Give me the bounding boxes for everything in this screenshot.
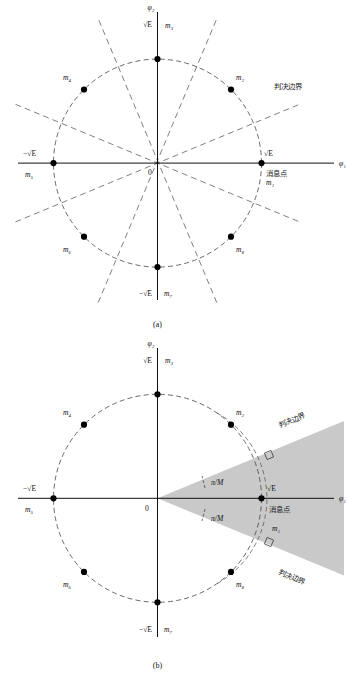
- point-label-m6-b: m₆: [63, 580, 71, 589]
- constellation-point: [228, 569, 234, 575]
- decision-boundary-label-lower-b: 判决边界: [277, 568, 307, 587]
- axis-value-neg-x-a: −√E: [23, 149, 36, 158]
- decision-boundary-label-a: 判决边界: [274, 82, 303, 91]
- axis-value-pos-x-b: √E: [267, 484, 276, 493]
- constellation-point: [154, 599, 160, 605]
- constellation-point: [154, 56, 160, 62]
- point-label-m7-a: m₇: [164, 289, 172, 298]
- constellation-point: [50, 495, 56, 501]
- figure-psk-constellation: φ₂ φ₁ 0 √E −√E √E −√E m₁ m₂ m₃ m₄ m₅ m₆ …: [0, 0, 360, 682]
- x-axis-label-a: φ₁: [339, 159, 346, 168]
- point-label-m1-b: m₁: [272, 524, 280, 533]
- point-label-m3-a: m₃: [165, 21, 173, 30]
- constellation-point: [258, 160, 264, 166]
- constellation-point: [228, 86, 234, 92]
- constellation-point: [81, 569, 87, 575]
- angle-label-upper: π/M: [211, 478, 224, 487]
- constellation-point: [81, 422, 87, 428]
- constellation-point: [228, 234, 234, 240]
- angle-label-lower: π/M: [211, 514, 224, 523]
- constellation-point: [258, 495, 264, 501]
- point-label-m4-b: m₄: [63, 408, 71, 417]
- origin-label-a: 0: [148, 168, 152, 177]
- constellation-point: [228, 422, 234, 428]
- point-label-m1-a: m₁: [266, 178, 274, 187]
- axis-value-pos-x-a: √E: [264, 149, 273, 158]
- message-point-label-b: 消息点: [269, 505, 291, 514]
- point-label-m5-b: m₅: [25, 505, 33, 514]
- constellation-point: [81, 234, 87, 240]
- y-axis-label-b: φ₂: [148, 339, 155, 348]
- origin-label-b: 0: [145, 504, 149, 513]
- axis-value-pos-y-a: √E: [143, 20, 152, 29]
- panel-b: φ₂ φ₁ 0 √E −√E √E −√E π/M π/M m₁ m₂: [18, 339, 346, 670]
- point-label-m7-b: m₇: [164, 625, 172, 634]
- axis-value-neg-y-a: −√E: [139, 289, 152, 298]
- x-axis-label-b: φ₁: [339, 494, 346, 503]
- message-point-label-a: 消息点: [266, 169, 288, 178]
- point-label-m8-b: m₈: [236, 580, 244, 589]
- point-label-m6-a: m₆: [63, 245, 71, 254]
- point-label-m3-b: m₃: [165, 356, 173, 365]
- axis-value-neg-x-b: −√E: [23, 484, 36, 493]
- point-label-m2-a: m₂: [236, 73, 244, 82]
- point-label-m4-a: m₄: [63, 73, 71, 82]
- constellation-point: [154, 264, 160, 270]
- axis-value-neg-y-b: −√E: [139, 625, 152, 634]
- panel-caption-b: (b): [153, 661, 163, 670]
- y-axis-label-a: φ₂: [148, 3, 155, 12]
- point-label-m8-a: m₈: [236, 245, 244, 254]
- panel-caption-a: (a): [153, 320, 162, 329]
- point-label-m2-b: m₂: [236, 408, 244, 417]
- point-label-m5-a: m₅: [25, 170, 33, 179]
- constellation-point: [154, 391, 160, 397]
- panel-a: φ₂ φ₁ 0 √E −√E √E −√E m₁ m₂ m₃ m₄ m₅ m₆ …: [16, 3, 347, 329]
- constellation-point: [81, 86, 87, 92]
- decision-boundary-label-upper-b: 判决边界: [277, 410, 307, 429]
- constellation-point: [50, 160, 56, 166]
- axis-value-pos-y-b: √E: [143, 356, 152, 365]
